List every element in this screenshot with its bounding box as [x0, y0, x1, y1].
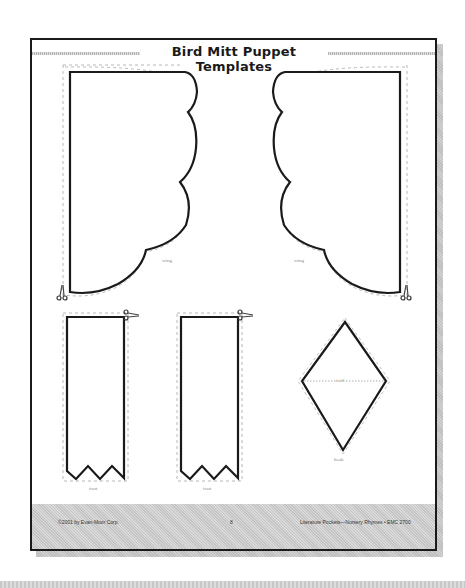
wing-left-label: wing	[162, 258, 172, 263]
foot-left-template	[63, 313, 128, 481]
bottom-edge-strip	[0, 581, 465, 588]
foot-right-label: foot	[203, 486, 211, 491]
foot-left-label: foot	[89, 486, 97, 491]
foot-right-template	[177, 313, 242, 481]
scissors-icon	[401, 285, 411, 300]
wing-right-label: wing	[294, 258, 304, 263]
template-artwork	[0, 0, 465, 588]
wing-left-template	[63, 65, 197, 297]
scissors-icon	[124, 310, 139, 320]
beak-template	[298, 318, 390, 454]
beak-fold-label: fold	[336, 378, 344, 383]
scissors-icon	[238, 310, 253, 320]
beak-label: beak	[334, 457, 343, 462]
scissors-icon	[57, 285, 67, 300]
